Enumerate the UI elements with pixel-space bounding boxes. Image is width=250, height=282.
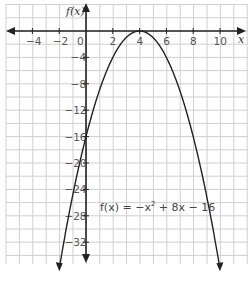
x-axis-left-arrow-icon <box>6 27 15 35</box>
curve-right-arrow-icon <box>216 262 223 271</box>
x-axis <box>6 27 246 35</box>
x-axis-label: x <box>238 33 245 46</box>
graph: −4−2246810 −4−8−12−16−20−24−28−32 0 f(x)… <box>0 0 250 282</box>
x-tick-label: 4 <box>136 35 143 47</box>
x-tick-label: −2 <box>53 35 68 47</box>
y-axis-label: f(x) <box>65 5 85 18</box>
x-tick-label: 2 <box>110 35 117 47</box>
x-tick-label: −4 <box>26 35 42 47</box>
x-tick-label: 6 <box>163 35 170 47</box>
x-tick-label: 10 <box>214 35 227 47</box>
x-tick-label: 8 <box>190 35 197 47</box>
y-axis-down-arrow-icon <box>82 254 90 263</box>
equation-label: f(x) = −x2 + 8x − 16 <box>100 200 215 214</box>
origin-label: 0 <box>77 35 84 47</box>
curve-left-arrow-icon <box>56 262 63 271</box>
